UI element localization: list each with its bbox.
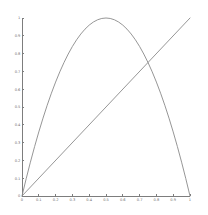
y-tick-label: 0.5	[15, 105, 21, 109]
y-tick-label: 0.1	[15, 177, 21, 181]
y-tick-label: 0.3	[15, 141, 21, 145]
x-tick-label: 1	[189, 198, 191, 202]
x-tick-label: 0.1	[36, 198, 42, 202]
x-tick-label: 0.6	[120, 198, 126, 202]
y-tick-label: 0.4	[15, 123, 21, 127]
x-tick-label: 0.9	[170, 198, 176, 202]
x-tick-label: 0.7	[137, 198, 143, 202]
data-series-group	[22, 18, 190, 196]
x-tick-label: 0.8	[154, 198, 160, 202]
x-tick-label: 0.5	[103, 198, 109, 202]
x-tick-label: 0.3	[70, 198, 76, 202]
plot-canvas: 00.10.20.30.40.50.60.70.80.91 00.10.20.3…	[0, 0, 208, 215]
x-axis-ticks: 00.10.20.30.40.50.60.70.80.91	[21, 194, 191, 202]
y-tick-label: 0.7	[15, 70, 21, 74]
y-tick-label: 1	[18, 16, 20, 20]
y-tick-label: 0.6	[15, 88, 21, 92]
y-tick-label: 0.9	[15, 34, 21, 38]
y-tick-label: 0.2	[15, 159, 21, 163]
x-tick-label: 0.2	[53, 198, 59, 202]
x-tick-label: 0.4	[86, 198, 92, 202]
chart-figure: 00.10.20.30.40.50.60.70.80.91 00.10.20.3…	[0, 0, 208, 215]
y-axis-ticks: 00.10.20.30.40.50.60.70.80.91	[15, 16, 25, 198]
series-line	[22, 18, 190, 196]
y-tick-label: 0.8	[15, 52, 21, 56]
x-tick-label: 0	[21, 198, 24, 202]
